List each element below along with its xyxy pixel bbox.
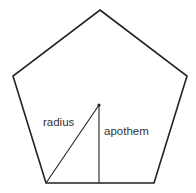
pentagon-diagram: radius apothem [0, 0, 196, 193]
radius-label: radius [43, 116, 75, 128]
apothem-label: apothem [104, 125, 149, 137]
center-point [97, 103, 100, 106]
pentagon-outline [13, 10, 187, 183]
